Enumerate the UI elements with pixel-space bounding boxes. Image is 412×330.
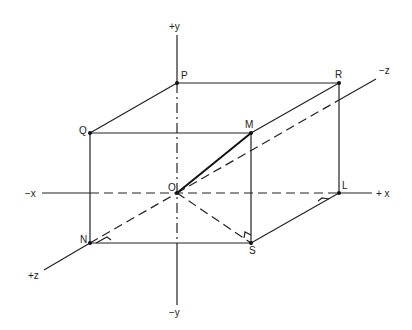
label-neg-y: −y	[169, 307, 180, 318]
point-P-dot	[175, 81, 179, 85]
coordinate-box-diagram: +y −y −x + x +z −z P R Q M O L N S	[0, 0, 412, 330]
point-R-dot	[337, 81, 341, 85]
z-axis-hidden-front	[90, 193, 177, 243]
neg-z-axis	[339, 79, 376, 100]
z-axis-hidden-back	[177, 100, 339, 193]
label-L: L	[342, 180, 348, 191]
label-P: P	[181, 70, 188, 81]
segment-OM	[177, 133, 251, 193]
label-R: R	[335, 69, 342, 80]
edge-SL	[251, 193, 339, 243]
point-N-dot	[88, 241, 92, 245]
right-angle-marker-S	[244, 232, 251, 238]
label-pos-z: +z	[28, 270, 39, 281]
label-N: N	[80, 234, 87, 245]
label-S: S	[249, 245, 256, 256]
label-neg-x: −x	[25, 188, 36, 199]
point-M-dot	[249, 131, 253, 135]
pos-z-axis	[44, 243, 90, 270]
point-L-dot	[337, 191, 341, 195]
edge-QP	[90, 83, 177, 133]
point-Q-dot	[88, 131, 92, 135]
label-pos-x: + x	[376, 188, 390, 199]
label-pos-y: +y	[169, 21, 180, 32]
diagonal-OS	[177, 193, 251, 243]
label-O: O	[168, 182, 176, 193]
label-Q: Q	[79, 125, 87, 136]
label-M: M	[245, 119, 253, 130]
right-angle-marker-N	[96, 237, 111, 243]
label-neg-z: −z	[379, 65, 390, 76]
